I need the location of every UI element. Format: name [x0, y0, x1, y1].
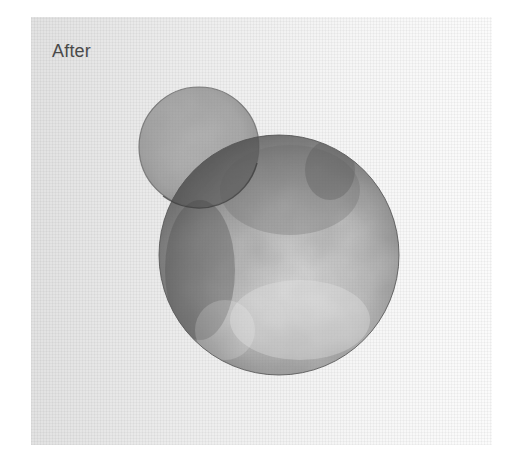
- watercolor-artwork: [0, 0, 510, 468]
